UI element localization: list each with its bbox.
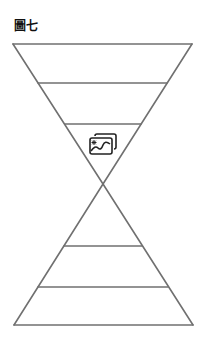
hourglass-diagram	[0, 0, 204, 346]
bottom-right-edge	[103, 184, 193, 325]
top-left-edge	[13, 44, 103, 184]
top-inverted-triangle	[13, 44, 192, 184]
image-gallery-icon	[88, 132, 118, 156]
top-right-edge	[103, 44, 192, 184]
bottom-left-edge	[14, 184, 103, 325]
bottom-upright-triangle	[14, 184, 193, 325]
